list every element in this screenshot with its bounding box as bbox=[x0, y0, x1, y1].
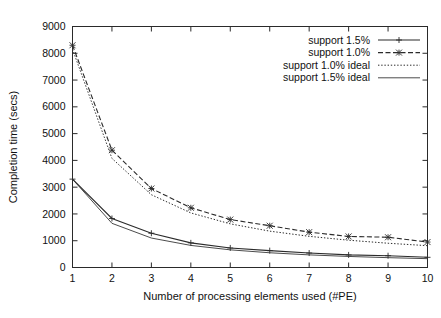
y-tick-label: 4000 bbox=[42, 154, 66, 166]
series-0 bbox=[70, 176, 431, 260]
data-point-marker-cross bbox=[396, 50, 402, 56]
x-axis-title: Number of processing elements used (#PE) bbox=[143, 290, 356, 302]
data-point-marker-cross bbox=[346, 233, 352, 239]
data-point-marker-cross bbox=[385, 234, 391, 240]
y-tick-label: 6000 bbox=[42, 100, 66, 112]
x-tick-label: 3 bbox=[148, 272, 154, 284]
data-point-marker-cross bbox=[267, 223, 273, 229]
data-point-marker-cross bbox=[148, 186, 154, 192]
y-tick-label: 5000 bbox=[42, 127, 66, 139]
x-tick-label: 1 bbox=[70, 272, 76, 284]
data-point-marker-cross bbox=[306, 229, 312, 235]
series-layer bbox=[70, 42, 431, 260]
data-point-marker-cross bbox=[227, 217, 233, 223]
x-tick-label: 5 bbox=[227, 272, 233, 284]
series-line bbox=[73, 49, 428, 245]
data-point-marker-cross bbox=[188, 205, 194, 211]
x-tick-label: 9 bbox=[385, 272, 391, 284]
line-chart: 0100020003000400050006000700080009000 12… bbox=[0, 0, 441, 318]
chart-container: 0100020003000400050006000700080009000 12… bbox=[0, 0, 441, 318]
x-tick-label: 7 bbox=[306, 272, 312, 284]
series-line bbox=[73, 45, 428, 242]
series-2 bbox=[73, 49, 428, 245]
series-line bbox=[73, 179, 428, 259]
data-point-marker-plus bbox=[148, 230, 154, 236]
plot-frame bbox=[73, 27, 428, 268]
y-tick-label: 8000 bbox=[42, 47, 66, 59]
data-point-marker-plus bbox=[425, 254, 431, 260]
series-3 bbox=[73, 179, 428, 259]
data-point-marker-plus bbox=[396, 37, 402, 43]
legend-label-0: support 1.5% bbox=[308, 34, 370, 46]
legend-label-3: support 1.5% ideal bbox=[283, 71, 370, 83]
y-axis-title: Completion time (secs) bbox=[7, 91, 19, 203]
y-tick-label: 2000 bbox=[42, 208, 66, 220]
x-tick-label: 4 bbox=[188, 272, 194, 284]
x-tick-label: 2 bbox=[109, 272, 115, 284]
data-point-marker-cross bbox=[70, 42, 76, 48]
y-tick-label: 9000 bbox=[42, 20, 66, 32]
x-tick-label: 6 bbox=[267, 272, 273, 284]
data-point-marker-cross bbox=[425, 239, 431, 245]
series-line bbox=[73, 179, 428, 257]
legend-label-2: support 1.0% ideal bbox=[283, 59, 370, 71]
y-tick-label: 1000 bbox=[42, 234, 66, 246]
y-tick-label: 3000 bbox=[42, 181, 66, 193]
data-point-marker-plus bbox=[346, 252, 352, 258]
x-tick-label: 8 bbox=[346, 272, 352, 284]
y-tick-label: 7000 bbox=[42, 74, 66, 86]
legend-label-1: support 1.0% bbox=[308, 46, 370, 58]
x-tick-label: 10 bbox=[422, 272, 434, 284]
chart-legend: support 1.5%support 1.0%support 1.0% ide… bbox=[283, 34, 420, 84]
series-1 bbox=[70, 42, 431, 245]
y-tick-label: 0 bbox=[60, 261, 66, 273]
